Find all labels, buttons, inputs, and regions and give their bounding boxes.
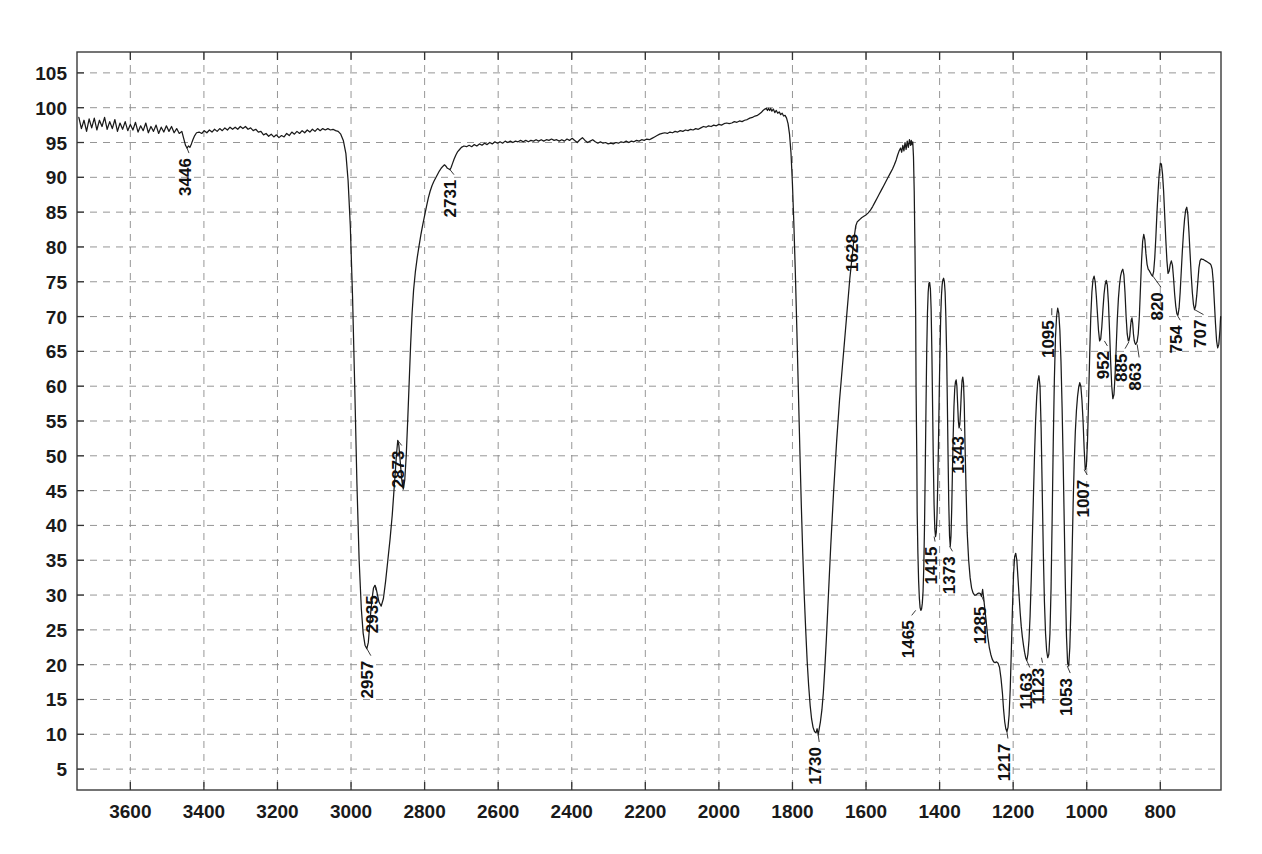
y-tick-label: 70: [46, 307, 67, 328]
y-tick-label: 60: [46, 376, 67, 397]
x-tick-label: 2600: [477, 801, 519, 822]
figure-background: [0, 0, 1262, 854]
peak-label: 1123: [1029, 668, 1048, 705]
x-tick-label: 3000: [330, 801, 372, 822]
peak-label: 3446: [176, 158, 195, 196]
peak-label: 820: [1148, 292, 1167, 320]
y-tick-label: 35: [46, 550, 68, 571]
peak-label: 1095: [1039, 320, 1058, 358]
ir-spectrum-figure: 5101520253035404550556065707580859095100…: [0, 0, 1262, 854]
peak-label: 2731: [441, 180, 460, 218]
x-tick-label: 800: [1144, 801, 1176, 822]
peak-label: 952: [1094, 351, 1113, 379]
y-tick-label: 50: [46, 446, 67, 467]
x-tick-label: 2000: [698, 801, 740, 822]
peak-label: 1343: [949, 436, 968, 474]
peak-label: 1285: [971, 606, 990, 644]
y-tick-label: 10: [46, 724, 67, 745]
y-tick-label: 25: [46, 620, 68, 641]
y-tick-label: 40: [46, 515, 67, 536]
y-tick-label: 20: [46, 655, 67, 676]
y-tick-label: 90: [46, 167, 67, 188]
x-tick-label: 1600: [845, 801, 887, 822]
x-tick-label: 3600: [109, 801, 151, 822]
y-tick-label: 80: [46, 237, 67, 258]
y-tick-label: 100: [35, 98, 67, 119]
peak-label: 2873: [389, 450, 408, 488]
y-tick-label: 45: [46, 481, 68, 502]
y-tick-label: 95: [46, 133, 68, 154]
peak-label: 1730: [806, 747, 825, 785]
y-tick-label: 105: [35, 63, 67, 84]
x-tick-label: 3400: [183, 801, 225, 822]
x-tick-label: 1800: [771, 801, 813, 822]
peak-label: 1007: [1074, 480, 1093, 518]
y-tick-label: 85: [46, 202, 68, 223]
peak-label: 1628: [843, 234, 862, 272]
y-tick-label: 55: [46, 411, 68, 432]
peak-label: 707: [1191, 320, 1210, 348]
x-tick-label: 3200: [256, 801, 298, 822]
y-tick-label: 15: [46, 689, 68, 710]
peak-label: 2935: [363, 595, 382, 633]
y-tick-label: 75: [46, 272, 68, 293]
x-tick-label: 1200: [992, 801, 1034, 822]
y-tick-label: 5: [56, 759, 67, 780]
x-tick-label: 2200: [624, 801, 666, 822]
peak-label: 1373: [940, 556, 959, 594]
x-tick-label: 2800: [403, 801, 445, 822]
peak-label: 1217: [995, 744, 1014, 782]
peak-label: 1465: [899, 620, 918, 658]
x-tick-label: 1000: [1066, 801, 1108, 822]
peak-label: 1053: [1057, 678, 1076, 716]
y-tick-label: 65: [46, 341, 68, 362]
peak-label: 863: [1126, 362, 1145, 390]
peak-label: 754: [1167, 325, 1186, 354]
y-tick-label: 30: [46, 585, 67, 606]
peak-label: 2957: [358, 661, 377, 699]
x-tick-label: 2400: [551, 801, 593, 822]
x-axis-tick-labels: 3600340032003000280026002400220020001800…: [109, 801, 1176, 822]
x-tick-label: 1400: [918, 801, 960, 822]
spectrum-chart: 5101520253035404550556065707580859095100…: [0, 0, 1262, 854]
peak-label: 1415: [922, 547, 941, 585]
